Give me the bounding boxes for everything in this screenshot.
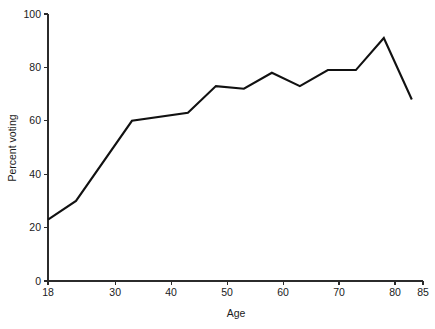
x-tick-label: 40 [165, 286, 177, 298]
y-axis-title: Percent voting [6, 114, 18, 181]
x-tick-label: 80 [389, 286, 401, 298]
x-tick-label: 50 [221, 286, 233, 298]
data-series-group [48, 38, 412, 220]
x-tick-label: 85 [417, 286, 429, 298]
y-tick-label: 0 [35, 275, 41, 287]
y-tick-label: 100 [23, 8, 41, 20]
x-axis: 1830405060708085 [42, 281, 429, 298]
y-tick-label: 80 [29, 61, 41, 73]
y-axis: 020406080100 [23, 8, 48, 287]
x-tick-group: 1830405060708085 [42, 281, 429, 298]
x-tick-label: 30 [109, 286, 121, 298]
y-tick-label: 40 [29, 168, 41, 180]
x-tick-label: 60 [277, 286, 289, 298]
line-chart: 020406080100 1830405060708085 Age Percen… [0, 0, 435, 329]
x-tick-label: 18 [42, 286, 54, 298]
y-tick-group: 020406080100 [23, 8, 48, 287]
y-tick-label: 60 [29, 114, 41, 126]
x-axis-title: Age [227, 307, 246, 319]
y-tick-label: 20 [29, 221, 41, 233]
x-tick-label: 70 [333, 286, 345, 298]
series-line-percent-voting [48, 38, 412, 220]
chart-container: 020406080100 1830405060708085 Age Percen… [0, 0, 435, 329]
